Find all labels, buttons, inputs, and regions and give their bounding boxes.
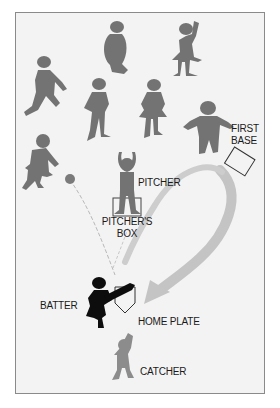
first-base-label: FIRST BASE (231, 123, 259, 147)
first-baseman-icon (183, 101, 234, 154)
pitchers-box-label: PITCHER'S BOX (95, 216, 159, 240)
pitcher-icon (114, 152, 141, 214)
pitcher-label: PITCHER (138, 177, 181, 188)
first-base-icon (225, 147, 255, 176)
fielder-icon (24, 56, 67, 116)
fielder-icon (172, 21, 202, 76)
catcher-label: CATCHER (140, 366, 186, 377)
fielder-icon (22, 134, 59, 190)
home-plate-label: HOME PLATE (138, 316, 200, 327)
field-diagram (0, 0, 280, 408)
batter-label: BATTER (40, 300, 78, 311)
fielder-icon (139, 79, 167, 138)
fielder-icon (104, 21, 128, 74)
fielder-icon (84, 78, 111, 141)
ball-icon (65, 174, 75, 184)
catcher-icon (112, 333, 134, 380)
